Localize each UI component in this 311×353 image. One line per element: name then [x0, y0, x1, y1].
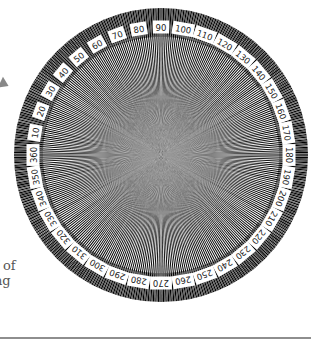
- side-text-line-1: f of: [0, 258, 16, 273]
- angle-label: 80: [130, 21, 148, 37]
- angle-label: 180: [283, 144, 296, 166]
- angle-label: 270: [150, 277, 172, 290]
- svg-text:90: 90: [156, 23, 167, 33]
- radial-angle-dial: 1020304050607080901001101201301401501601…: [0, 0, 311, 353]
- angle-label: 360: [27, 144, 40, 166]
- radial-lines: [9, 3, 311, 307]
- svg-text:180: 180: [284, 147, 294, 163]
- svg-text:270: 270: [153, 278, 169, 288]
- angle-label: 90: [153, 21, 169, 34]
- bottom-divider: [0, 337, 311, 339]
- side-text-line-2: ng: [0, 273, 11, 288]
- svg-text:360: 360: [29, 147, 39, 163]
- svg-text:80: 80: [133, 24, 145, 36]
- angle-label: 10: [27, 124, 43, 142]
- svg-text:10: 10: [30, 127, 42, 139]
